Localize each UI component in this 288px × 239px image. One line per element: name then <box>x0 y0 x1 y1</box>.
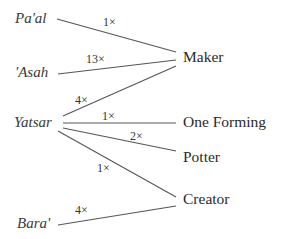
count-yatsar-potter: 2× <box>130 129 143 144</box>
target-one-forming: One Forming <box>183 113 266 131</box>
count-asah-maker: 13× <box>86 52 105 67</box>
target-potter: Potter <box>183 148 220 166</box>
source-yatsar: Yatsar <box>14 114 52 131</box>
source-paal: Pa'al <box>15 10 47 27</box>
edge-asah-maker <box>58 60 176 74</box>
target-maker: Maker <box>183 48 223 66</box>
count-yatsar-one-forming: 1× <box>102 109 115 124</box>
edge-yatsar-potter <box>63 128 176 151</box>
count-paal-maker: 1× <box>103 15 116 30</box>
edge-yatsar-creator <box>58 131 176 197</box>
source-bara: Bara' <box>17 215 50 232</box>
source-asah: 'Asah <box>15 64 48 81</box>
count-yatsar-creator: 1× <box>97 161 110 176</box>
count-bara-creator: 4× <box>75 203 88 218</box>
target-creator: Creator <box>183 190 229 208</box>
count-yatsar-maker: 4× <box>75 93 88 108</box>
edge-yatsar-maker <box>63 66 176 116</box>
edge-paal-maker <box>57 19 176 52</box>
